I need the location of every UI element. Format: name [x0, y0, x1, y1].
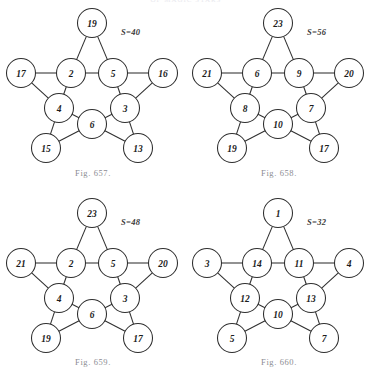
star-node-outer-left: 21 — [193, 59, 222, 88]
node-number: 4 — [56, 294, 62, 304]
node-number: 2 — [68, 69, 74, 79]
star-edge-inner_upper_right-to-inner_right — [118, 277, 121, 285]
star-edge-outer_lower_left-to-inner_left — [50, 312, 54, 324]
star-edge-inner_left-to-inner_upper_left — [250, 87, 253, 95]
sum-label: S=40 — [121, 27, 140, 37]
node-number: 21 — [201, 69, 212, 79]
star-node-inner-upper-left: 14 — [243, 249, 272, 278]
star-edge-inner_right-to-inner_bottom — [105, 304, 112, 307]
star-node-outer-right: 16 — [149, 59, 178, 88]
star-edge-outer_top-to-inner_upper_left — [77, 226, 87, 249]
star-node-outer-left: 21 — [7, 249, 36, 278]
star-node-inner-left: 12 — [231, 284, 260, 313]
magic-star-diagram: 191716151325436 — [0, 0, 186, 189]
star-node-outer-top: 23 — [78, 199, 107, 228]
star-edge-outer_lower_right-to-inner_bottom — [105, 321, 125, 332]
star-edge-outer_lower_right-to-inner_bottom — [105, 131, 125, 142]
figure-fig-658: 2321201917698710 S=56 Fig. 658. — [186, 0, 372, 189]
node-number: 19 — [227, 144, 237, 154]
star-node-outer-top: 19 — [78, 9, 107, 38]
node-number: 4 — [346, 259, 352, 269]
star-node-inner-upper-right: 5 — [99, 249, 128, 278]
star-edge-outer_lower_left-to-inner_bottom — [245, 131, 265, 142]
figure-caption: Fig. 657. — [0, 168, 186, 178]
node-number: 15 — [41, 144, 51, 154]
node-number: 23 — [86, 209, 97, 219]
star-edge-outer_left-to-inner_left — [218, 83, 235, 98]
node-number: 3 — [204, 259, 210, 269]
star-edge-outer_lower_right-to-inner_bottom — [291, 321, 311, 332]
figure-caption: Fig. 658. — [186, 168, 372, 178]
star-node-inner-bottom: 6 — [78, 300, 107, 329]
node-number: 13 — [133, 144, 143, 154]
star-edge-outer_lower_left-to-inner_left — [236, 122, 240, 134]
star-node-inner-right: 13 — [297, 284, 326, 313]
figure-caption: Fig. 660. — [186, 357, 372, 367]
star-node-outer-lower-left: 19 — [32, 324, 61, 353]
star-edge-outer_lower_right-to-inner_bottom — [291, 131, 311, 142]
figure-fig-660: 134571411121310 S=32 Fig. 660. — [186, 190, 372, 379]
star-edge-inner_upper_right-to-inner_right — [304, 87, 307, 95]
star-edge-outer_right-to-inner_right — [136, 273, 153, 288]
star-node-inner-upper-right: 5 — [99, 59, 128, 88]
node-number: 5 — [230, 334, 235, 344]
star-node-outer-top: 23 — [264, 9, 293, 38]
node-number: 3 — [122, 294, 128, 304]
star-edge-outer_left-to-inner_left — [32, 83, 49, 98]
magic-star-diagram: 2321201917698710 — [186, 0, 372, 189]
star-edge-outer_lower_left-to-inner_bottom — [245, 321, 265, 332]
star-edge-outer_top-to-inner_upper_right — [98, 226, 108, 249]
star-edge-outer_lower_right-to-inner_right — [129, 122, 133, 134]
sum-label: S=32 — [307, 217, 326, 227]
node-number: 9 — [297, 69, 302, 79]
node-number: 10 — [273, 120, 283, 130]
star-edge-inner_upper_right-to-inner_right — [304, 277, 307, 285]
star-node-inner-upper-left: 2 — [57, 249, 86, 278]
star-edge-inner_right-to-inner_bottom — [291, 304, 298, 307]
node-number: 12 — [240, 294, 250, 304]
node-number: 2 — [68, 259, 74, 269]
star-edge-outer_left-to-inner_left — [218, 273, 235, 288]
star-node-inner-upper-left: 2 — [57, 59, 86, 88]
star-node-inner-upper-right: 11 — [285, 249, 314, 278]
figure-caption: Fig. 659. — [0, 357, 186, 367]
star-edge-outer_lower_left-to-inner_bottom — [59, 321, 79, 332]
star-node-outer-right: 4 — [335, 249, 364, 278]
star-edge-inner_bottom-to-inner_left — [72, 114, 79, 117]
star-nodes: 134571411121310 — [193, 199, 364, 353]
star-node-inner-bottom: 6 — [78, 110, 107, 139]
star-node-outer-left: 3 — [193, 249, 222, 278]
figure-fig-659: 232120191725436 S=48 Fig. 659. — [0, 190, 186, 379]
star-node-inner-right: 7 — [297, 94, 326, 123]
magic-star-diagram: 134571411121310 — [186, 190, 372, 379]
star-edge-outer_top-to-inner_upper_right — [284, 36, 294, 59]
star-edge-inner_right-to-inner_bottom — [105, 114, 112, 117]
star-edge-outer_right-to-inner_right — [136, 83, 153, 98]
star-edge-inner_bottom-to-inner_left — [258, 304, 265, 307]
star-node-inner-left: 8 — [231, 94, 260, 123]
node-number: 16 — [158, 69, 168, 79]
magic-star-diagram: 232120191725436 — [0, 190, 186, 379]
star-edge-inner_left-to-inner_upper_left — [250, 277, 253, 285]
node-number: 1 — [276, 209, 281, 219]
star-node-outer-lower-right: 7 — [310, 324, 339, 353]
star-edge-outer_lower_right-to-inner_right — [315, 312, 319, 324]
node-number: 11 — [295, 259, 304, 269]
node-number: 21 — [15, 259, 26, 269]
star-node-inner-upper-left: 6 — [243, 59, 272, 88]
star-node-outer-top: 1 — [264, 199, 293, 228]
star-node-inner-upper-right: 9 — [285, 59, 314, 88]
node-number: 17 — [319, 144, 330, 154]
node-number: 10 — [273, 310, 283, 320]
star-edge-inner_left-to-inner_upper_left — [64, 277, 67, 285]
star-edge-outer_right-to-inner_right — [322, 83, 339, 98]
star-edge-inner_bottom-to-inner_left — [72, 304, 79, 307]
star-edge-outer_top-to-inner_upper_right — [98, 36, 108, 59]
star-node-outer-right: 20 — [149, 249, 178, 278]
node-number: 13 — [306, 294, 316, 304]
node-number: 17 — [16, 69, 27, 79]
magic-star-figure-grid: 191716151325436 S=40 Fig. 657. 232120191… — [0, 0, 372, 379]
star-edge-outer_lower_right-to-inner_right — [129, 312, 133, 324]
star-edge-outer_top-to-inner_upper_left — [263, 36, 273, 59]
star-node-outer-right: 20 — [335, 59, 364, 88]
